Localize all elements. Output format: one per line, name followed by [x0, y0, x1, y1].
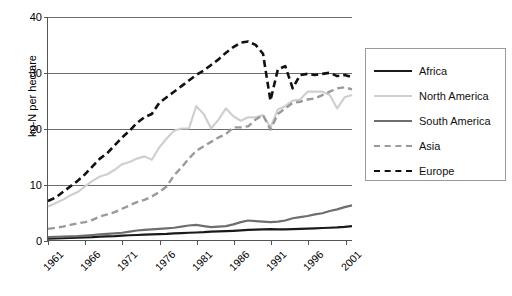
legend-item-north-america[interactable]: North America [374, 83, 505, 108]
x-tick-label: 1976 [152, 248, 177, 273]
x-tick-mark [122, 240, 123, 245]
x-tick-label: 1981 [189, 248, 214, 273]
x-tick-label: 1986 [226, 248, 251, 273]
legend-label: Asia [419, 140, 440, 152]
legend-item-africa[interactable]: Africa [374, 58, 505, 83]
legend-swatch-icon [374, 115, 412, 127]
chart-figure: kg-N per hectare 01020304019611966197119… [0, 0, 512, 296]
y-tick-label: 30 [30, 67, 42, 79]
y-tick-label: 10 [30, 179, 42, 191]
x-tick-label: 2001 [338, 248, 363, 273]
x-tick-label: 1971 [115, 248, 140, 273]
x-tick-label: 1966 [78, 248, 103, 273]
x-tick-label: 1996 [301, 248, 326, 273]
legend-label: South America [419, 115, 491, 127]
series-line-asia [48, 87, 352, 229]
legend-item-europe[interactable]: Europe [374, 158, 505, 183]
legend-item-asia[interactable]: Asia [374, 133, 505, 158]
series-line-europe [48, 42, 352, 201]
legend-label: Europe [419, 165, 454, 177]
legend-swatch-icon [374, 140, 412, 152]
x-tick-mark [85, 240, 86, 245]
chart-legend: AfricaNorth AmericaSouth AmericaAsiaEuro… [365, 48, 506, 181]
x-tick-mark [346, 240, 347, 245]
x-tick-mark [234, 240, 235, 245]
x-tick-mark [308, 240, 309, 245]
x-tick-mark [48, 240, 49, 245]
legend-label: North America [419, 90, 489, 102]
series-layer [48, 17, 352, 240]
y-tick-label: 40 [30, 11, 42, 23]
legend-swatch-icon [374, 165, 412, 177]
x-tick-mark [271, 240, 272, 245]
x-tick-label: 1961 [40, 248, 65, 273]
x-tick-label: 1991 [264, 248, 289, 273]
legend-swatch-icon [374, 65, 412, 77]
legend-swatch-icon [374, 90, 412, 102]
legend-label: Africa [419, 65, 447, 77]
plot-area: 0102030401961196619711976198119861991199… [47, 17, 352, 241]
x-tick-mark [160, 240, 161, 245]
y-tick-label: 20 [30, 123, 42, 135]
series-line-africa [48, 226, 352, 239]
x-tick-mark [197, 240, 198, 245]
y-tick-label: 0 [36, 235, 42, 247]
legend-item-south-america[interactable]: South America [374, 108, 505, 133]
y-axis-title: kg-N per hectare [26, 16, 38, 176]
